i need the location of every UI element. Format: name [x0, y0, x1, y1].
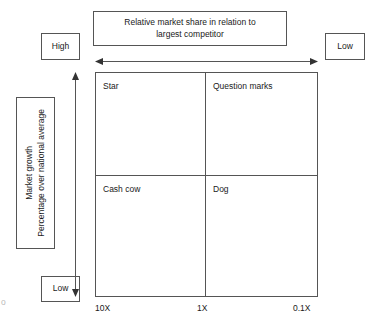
horizontal-axis-title-line-2: largest competitor: [124, 29, 255, 40]
vertical-axis-title-line-2: Percentage over national average: [36, 109, 48, 237]
matrix-vertical-divider: [205, 73, 206, 296]
vertical-axis-arrow-icon: [70, 72, 81, 297]
quadrant-label-dog: Dog: [213, 184, 229, 194]
matrix-horizontal-divider: [96, 175, 317, 176]
horizontal-axis-low-marker: Low: [325, 33, 365, 60]
horizontal-axis-tick-1x: 1X: [197, 303, 207, 313]
horizontal-axis-title-line-1: Relative market share in relation to: [124, 17, 255, 28]
quadrant-label-question-marks: Question marks: [213, 81, 273, 91]
horizontal-axis-title: Relative market share in relation to lar…: [93, 11, 287, 46]
vertical-axis-title: Market growth Percentage over national a…: [16, 97, 55, 249]
horizontal-axis-arrow-icon: [95, 56, 318, 67]
horizontal-axis-high-marker: High: [41, 33, 80, 60]
bcg-matrix-diagram: Relative market share in relation to lar…: [0, 0, 371, 329]
horizontal-axis-title-text: Relative market share in relation to lar…: [124, 17, 255, 40]
vertical-axis-title-text: Market growth Percentage over national a…: [24, 109, 48, 237]
quadrant-label-star: Star: [103, 81, 119, 91]
vertical-axis-title-line-1: Market growth: [24, 109, 36, 237]
horizontal-axis-tick-0.1x: 0.1X: [293, 303, 311, 313]
matrix-grid: Star Question marks Cash cow Dog: [95, 72, 318, 297]
quadrant-label-cash-cow: Cash cow: [103, 184, 140, 194]
horizontal-axis-tick-10x: 10X: [95, 303, 110, 313]
page-edge-artifact: o: [1, 297, 6, 307]
